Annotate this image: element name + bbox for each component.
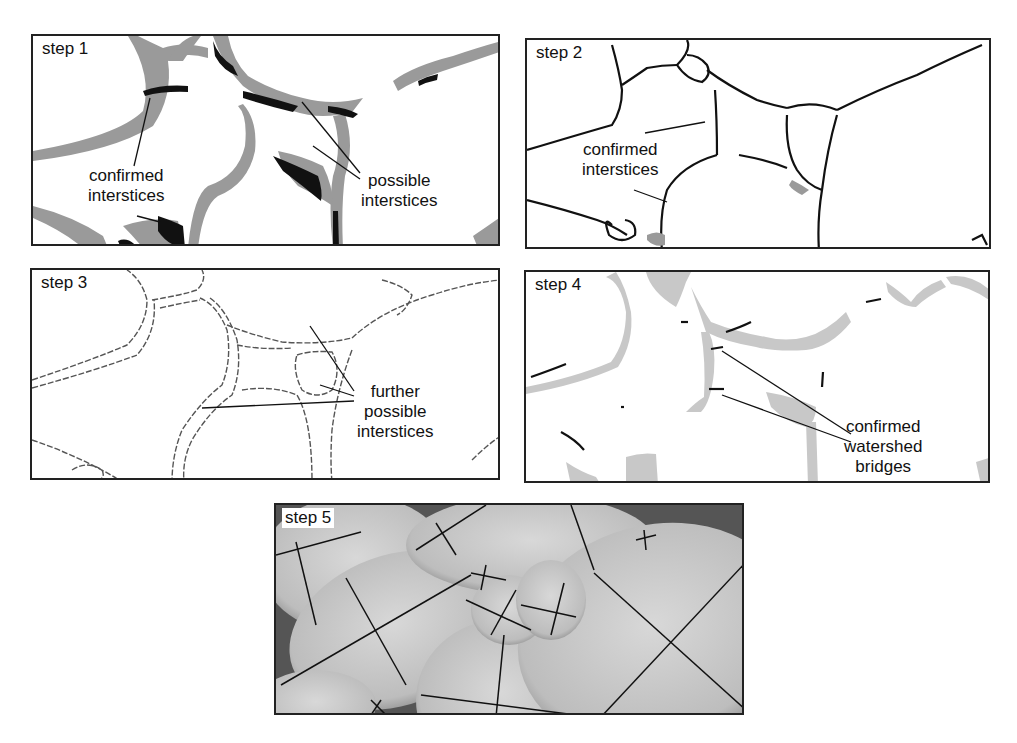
step-5-label: step 5 [282, 508, 334, 528]
panel-step-5: step 5 [274, 503, 744, 715]
step-1-callout-possible-interstices: possible interstices [361, 171, 438, 211]
step-2-callout-confirmed-interstices: confirmed interstices [582, 140, 659, 180]
step-5-grain-photo [276, 505, 744, 715]
panel-step-2: step 2 confirmed interstices [525, 38, 991, 249]
step-1-callout-leaders [33, 36, 500, 246]
step-2-label: step 2 [533, 43, 585, 63]
step-3-label: step 3 [38, 273, 90, 293]
step-4-callout-confirmed-watershed-bridges: confirmed watershed bridges [844, 417, 922, 477]
step-3-segmentation-image [32, 270, 500, 480]
step-4-label: step 4 [532, 275, 584, 295]
step-1-callout-confirmed-interstices: confirmed interstices [88, 166, 165, 206]
step-1-label: step 1 [39, 39, 91, 59]
panel-step-3: step 3 further possible interstices [30, 268, 500, 480]
step-3-callout-further-possible-interstices: further possible interstices [357, 382, 434, 442]
panel-step-1: step 1 confirmed interstices possible in… [31, 34, 500, 246]
panel-step-4: step 4 confirmed watershed bridges [524, 270, 990, 483]
